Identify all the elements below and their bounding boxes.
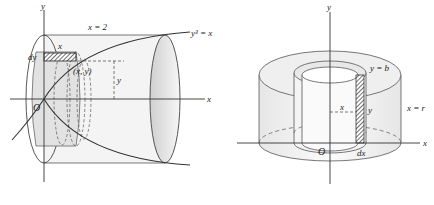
top-label: y = b xyxy=(369,63,390,73)
outer-radius-label: x = r xyxy=(406,103,426,113)
dy-label: dy xyxy=(28,52,37,62)
origin-label: O xyxy=(318,146,325,157)
boundary-label: x = 2 xyxy=(87,22,108,32)
shell-diagram-x-axis: y x O x = 2 y³ = x dy x (x, y) y xyxy=(0,0,217,205)
figure-right: y x O y = b x = r x y dx xyxy=(217,0,434,205)
point-label: (x, y) xyxy=(73,66,91,76)
x-axis-label: x xyxy=(422,138,427,148)
shell-diagram-y-axis: y x O y = b x = r x y dx xyxy=(217,0,434,205)
curve-label: y³ = x xyxy=(190,28,212,38)
figure-left: y x O x = 2 y³ = x dy x (x, y) y xyxy=(0,0,217,205)
y-axis-label: y xyxy=(326,2,331,12)
height-label: y xyxy=(367,105,372,115)
y-axis-label: y xyxy=(40,1,45,11)
origin-label: O xyxy=(33,102,40,113)
x-axis-label: x xyxy=(206,94,211,104)
height-label: y xyxy=(116,75,121,85)
radius-label: x xyxy=(339,102,344,112)
shell-length-label: x xyxy=(57,41,62,51)
dx-label: dx xyxy=(357,148,366,158)
